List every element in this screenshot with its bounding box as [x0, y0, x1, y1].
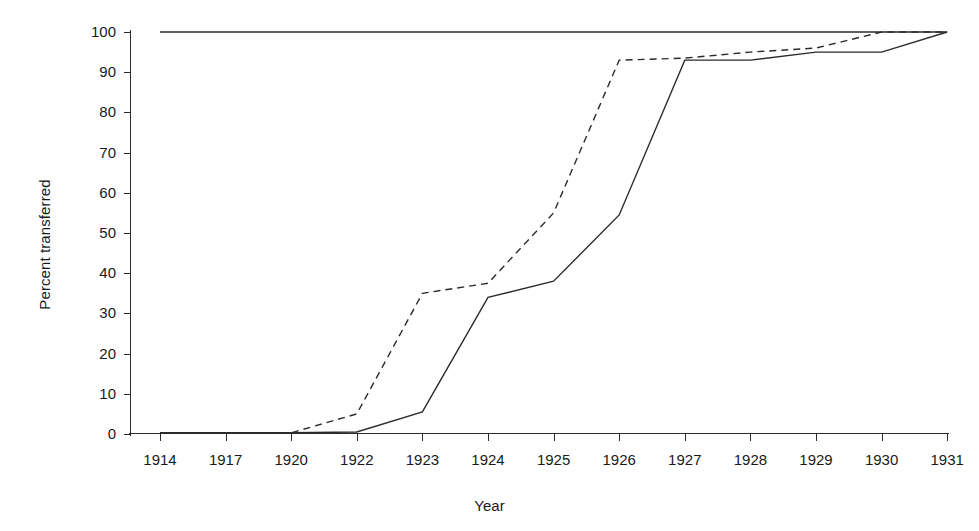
series-solid-line — [160, 32, 947, 433]
series-dashed-line — [160, 32, 947, 433]
chart-figure: Percent transferred Year 010203040506070… — [0, 0, 979, 531]
chart-plot-area — [0, 0, 979, 531]
